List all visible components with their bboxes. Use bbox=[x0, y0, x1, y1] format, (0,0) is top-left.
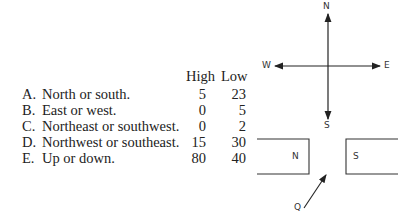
compass-south-label: S bbox=[324, 120, 330, 130]
magnet-south-label: S bbox=[353, 151, 359, 161]
magnet-north-label: N bbox=[292, 151, 299, 161]
particle-velocity-arrow-icon bbox=[304, 175, 326, 208]
compass-north-label: N bbox=[323, 1, 330, 11]
particle-label: Q bbox=[294, 202, 301, 212]
compass-east-label: E bbox=[384, 60, 390, 70]
north-magnet-pole bbox=[257, 139, 309, 174]
compass-west-label: W bbox=[262, 60, 271, 70]
compass-magnet-diagram bbox=[0, 0, 417, 224]
